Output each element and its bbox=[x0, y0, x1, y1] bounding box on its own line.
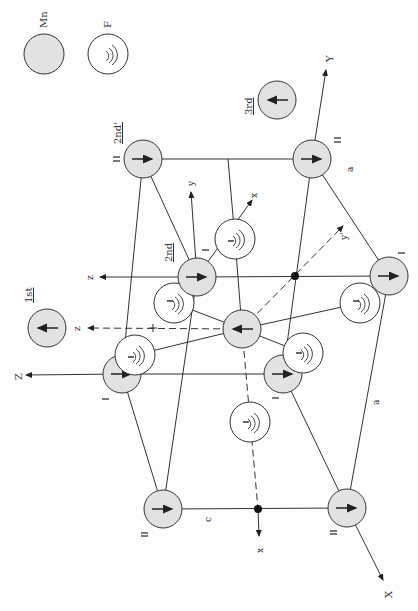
f-atom bbox=[340, 283, 380, 323]
mn-atom-center bbox=[223, 310, 261, 348]
dimension-a-lower: a bbox=[371, 399, 381, 405]
axis-label-x-top: x bbox=[249, 193, 259, 198]
axis-label-x-bottom: x bbox=[255, 548, 265, 553]
label-3rd: 3rd bbox=[243, 97, 254, 115]
legend-mn-label: Mn bbox=[38, 11, 49, 28]
axis-label-z-solid: z bbox=[85, 275, 95, 280]
dimension-c: c bbox=[203, 517, 213, 522]
mn-atom bbox=[144, 490, 182, 528]
mn-atom-2nd-prime bbox=[124, 140, 162, 178]
diagram-canvas: Mn F 1st 2nd 2nd' 3rd Y Z X z z y x y' x… bbox=[0, 0, 418, 611]
legend-1st-neighbor bbox=[28, 309, 66, 347]
mn-atom bbox=[328, 489, 366, 527]
f-atom bbox=[230, 402, 270, 442]
axis-label-Y: Y bbox=[324, 55, 335, 63]
label-2nd-prime: 2nd' bbox=[112, 122, 123, 144]
mn-atom bbox=[293, 140, 331, 178]
axis-label-y: y bbox=[186, 180, 196, 187]
origin-dot-upper bbox=[291, 272, 299, 280]
crystal-structure-diagram: Mn F 1st 2nd 2nd' 3rd Y Z X z z y x y' x… bbox=[0, 0, 418, 611]
mn-atom bbox=[370, 257, 408, 295]
mn-atom-2nd bbox=[178, 258, 216, 296]
axis-label-X: X bbox=[383, 590, 394, 598]
label-2nd: 2nd bbox=[163, 242, 174, 262]
origin-dot-lower bbox=[254, 505, 262, 513]
f-atom bbox=[115, 335, 155, 375]
axis-label-Z: Z bbox=[13, 373, 24, 380]
axis-label-y-prime: y' bbox=[339, 232, 349, 241]
f-atom bbox=[215, 219, 255, 259]
axis-label-z-dashed: z bbox=[72, 326, 82, 331]
legend-mn-atom bbox=[24, 34, 64, 74]
dimension-a-upper: a bbox=[345, 166, 355, 172]
label-1st: 1st bbox=[23, 287, 34, 303]
legend-f-label: F bbox=[102, 21, 113, 28]
f-atom bbox=[283, 333, 323, 373]
legend-3rd-neighbor bbox=[258, 81, 296, 119]
legend-f-atom bbox=[88, 34, 128, 74]
